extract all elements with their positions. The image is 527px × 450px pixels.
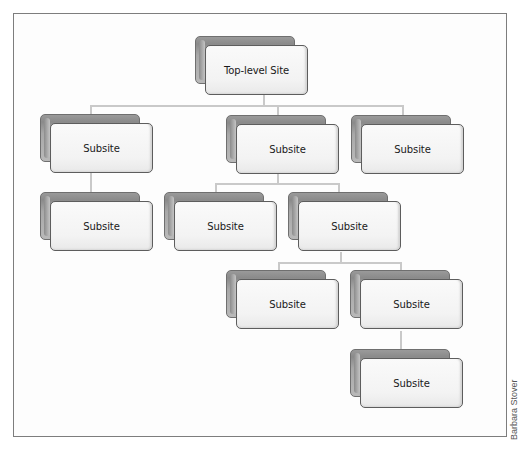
node-card: Subsite	[236, 124, 339, 174]
node-label: Subsite	[394, 144, 430, 155]
node-card: Subsite	[361, 124, 464, 174]
connector-l1a-to-l2a	[90, 172, 92, 193]
node-label: Subsite	[269, 299, 305, 310]
node-card: Subsite	[174, 201, 277, 251]
node-subsite-l2a: Subsite	[40, 192, 156, 250]
connector-to-l1b	[277, 105, 279, 115]
node-top-level-site: Top-level Site	[195, 36, 311, 94]
connector-level1-bar	[90, 105, 403, 107]
node-label: Subsite	[269, 144, 305, 155]
node-subsite-l1c: Subsite	[351, 115, 467, 173]
connector-to-l2c	[338, 183, 340, 192]
node-label: Top-level Site	[224, 65, 289, 76]
node-card: Subsite	[50, 123, 153, 173]
connector-to-l1c	[402, 105, 404, 115]
connector-level3-bar	[278, 262, 401, 264]
node-subsite-l2c: Subsite	[288, 192, 404, 250]
node-card: Subsite	[236, 279, 339, 329]
connector-l3b-to-l4a	[400, 331, 402, 351]
node-card: Subsite	[298, 201, 401, 251]
node-label: Subsite	[83, 221, 119, 232]
image-credit: Barbara Stover	[509, 379, 519, 440]
node-subsite-l4a: Subsite	[350, 349, 466, 407]
node-subsite-l1b: Subsite	[226, 115, 342, 173]
node-card: Subsite	[360, 358, 463, 408]
node-subsite-l3b: Subsite	[350, 270, 466, 328]
node-subsite-l1a: Subsite	[40, 114, 156, 172]
node-card: Subsite	[50, 201, 153, 251]
node-label: Subsite	[393, 299, 429, 310]
node-label: Subsite	[83, 143, 119, 154]
node-card: Subsite	[360, 279, 463, 329]
node-label: Subsite	[393, 378, 429, 389]
node-subsite-l2b: Subsite	[164, 192, 280, 250]
node-label: Subsite	[207, 221, 243, 232]
connector-to-l2b	[215, 183, 217, 192]
node-label: Subsite	[331, 221, 367, 232]
connector-level2-bar	[215, 183, 339, 185]
node-card: Top-level Site	[205, 45, 308, 95]
node-subsite-l3a: Subsite	[226, 270, 342, 328]
